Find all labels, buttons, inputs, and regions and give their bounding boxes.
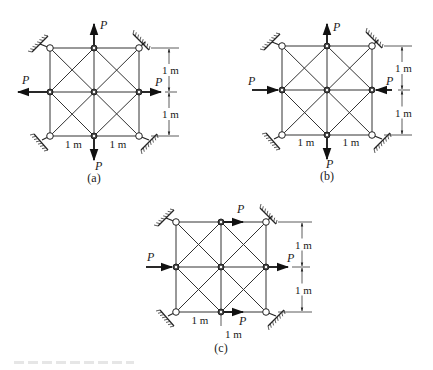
support-pin-node xyxy=(279,132,286,139)
dimensions: 1 m1 m1 m1 m xyxy=(298,46,413,148)
truss-panel-b: 1 m1 m1 m1 mPPPP(b) xyxy=(247,20,412,183)
support-pin-node xyxy=(47,45,54,52)
horizontal-dimension-label: 1 m xyxy=(192,314,209,326)
vertical-dimension-label: 1 m xyxy=(295,239,312,251)
faint-footer-text xyxy=(14,361,134,364)
force-label: P xyxy=(146,250,155,264)
force-label: P xyxy=(21,73,30,87)
force-label: P xyxy=(385,74,394,88)
horizontal-dimension-label: 1 m xyxy=(65,138,82,150)
panel-caption: (c) xyxy=(214,341,227,355)
support-pin-node xyxy=(136,45,143,52)
vertical-dimension-label: 1 m xyxy=(295,284,312,296)
vertical-dimension-label: 1 m xyxy=(395,62,412,74)
support-pin-node xyxy=(47,133,54,140)
truss-diagram-svg: 1 m1 m1 m1 mPPPP(a)1 m1 m1 m1 mPPPP(b)1 … xyxy=(0,0,433,370)
force-label: P xyxy=(286,251,295,265)
horizontal-dimension-label: 1 m xyxy=(225,328,242,340)
truss-panel-c: 1 m1 m1 m1 mPPPP(c) xyxy=(146,202,312,355)
support-pin-node xyxy=(279,43,286,50)
horizontal-dimension-label: 1 m xyxy=(343,136,360,148)
panel-caption: (b) xyxy=(320,169,334,183)
panel-caption: (a) xyxy=(87,171,100,185)
support-pin-node xyxy=(369,43,376,50)
vertical-dimension-label: 1 m xyxy=(162,64,179,76)
vertical-dimension-label: 1 m xyxy=(162,108,179,120)
truss-panel-a: 1 m1 m1 m1 mPPPP(a) xyxy=(18,18,179,185)
dimensions: 1 m1 m1 m1 m xyxy=(65,48,179,150)
horizontal-dimension-label: 1 m xyxy=(298,136,315,148)
force-label: P xyxy=(154,75,163,89)
support-pin-node xyxy=(136,133,143,140)
force-label: P xyxy=(99,18,108,32)
force-label: P xyxy=(236,202,245,216)
force-label: P xyxy=(247,74,256,88)
support-pin-node xyxy=(369,132,376,139)
force-label: P xyxy=(332,20,341,34)
support-pin-node xyxy=(173,309,180,316)
vertical-dimension-label: 1 m xyxy=(395,107,412,119)
support-pin-node xyxy=(173,219,180,226)
support-pin-node xyxy=(263,219,270,226)
force-label: P xyxy=(238,314,247,328)
truss-figure: 1 m1 m1 m1 mPPPP(a)1 m1 m1 m1 mPPPP(b)1 … xyxy=(0,0,433,370)
horizontal-dimension-label: 1 m xyxy=(110,138,127,150)
support-pin-node xyxy=(263,309,270,316)
